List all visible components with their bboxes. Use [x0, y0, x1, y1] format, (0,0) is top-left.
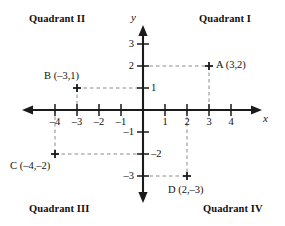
quadrant-label-4: Quadrant IV [203, 203, 263, 214]
x-axis-arrow-left [22, 105, 33, 114]
point-label-b: B (–3,1) [44, 70, 79, 81]
x-tick-label--3: –3 [70, 116, 84, 127]
x-tick-label-4: 4 [225, 116, 237, 127]
y-tick-label-3: 3 [122, 38, 134, 49]
point-marker-b[interactable] [73, 84, 81, 92]
point-label-a: A (3,2) [216, 59, 246, 70]
x-tick-label-2: 2 [181, 116, 193, 127]
coordinate-plane-svg [0, 0, 285, 226]
x-tick-label--2: –2 [92, 116, 106, 127]
point-label-d: D (2,–3) [168, 184, 204, 195]
quadrant-label-3: Quadrant III [29, 203, 89, 214]
point-label-c: C (–4,–2) [10, 160, 50, 171]
x-axis-arrow-right [251, 105, 262, 114]
y-tick-label--1: –1 [118, 126, 134, 137]
point-marker-d[interactable] [183, 172, 191, 180]
point-marker-a[interactable] [205, 62, 213, 70]
coordinate-plane-figure: Quadrant I Quadrant II Quadrant III Quad… [0, 0, 285, 226]
quadrant-label-2: Quadrant II [29, 13, 85, 24]
point-marker-c[interactable] [51, 150, 59, 158]
y-tick-label--3: –3 [118, 170, 134, 181]
x-tick-label-3: 3 [203, 116, 215, 127]
y-tick-label-1: 1 [151, 82, 163, 93]
x-axis-label: x [263, 112, 268, 124]
y-axis-arrow-up [138, 25, 147, 36]
quadrant-label-1: Quadrant I [199, 13, 251, 24]
y-tick-label-2: 2 [122, 60, 134, 71]
y-tick-label--2: –2 [151, 148, 167, 159]
x-tick-label-1: 1 [159, 116, 171, 127]
x-tick-label--4: –4 [48, 116, 62, 127]
y-axis-arrow-down [138, 192, 147, 203]
y-axis-label: y [131, 11, 136, 23]
